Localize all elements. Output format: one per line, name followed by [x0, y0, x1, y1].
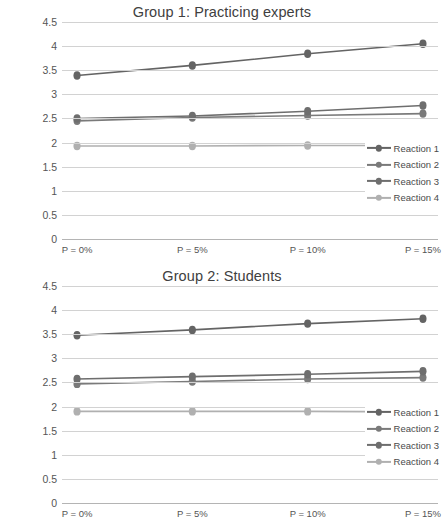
chart-2-legend: Reaction 1Reaction 2Reaction 3Reaction 4	[365, 402, 440, 472]
gridline	[62, 70, 438, 71]
y-axis-tick-label: 0.5	[42, 473, 57, 485]
legend-label: Reaction 3	[394, 441, 439, 451]
legend-swatch	[367, 457, 391, 467]
legend-swatch	[367, 176, 391, 186]
legend-item[interactable]: Reaction 2	[367, 157, 439, 174]
gridline	[62, 334, 438, 335]
x-axis-tick-label: P = 10%	[290, 244, 326, 255]
legend-label: Reaction 2	[394, 424, 439, 434]
legend-label: Reaction 3	[394, 177, 439, 187]
y-axis-tick-label: 1.5	[42, 425, 57, 437]
data-point	[73, 71, 80, 79]
series-line	[77, 319, 423, 335]
data-point	[304, 319, 311, 327]
data-point	[189, 407, 196, 415]
gridline	[62, 358, 438, 359]
legend-item[interactable]: Reaction 4	[367, 190, 439, 207]
legend-item[interactable]: Reaction 1	[367, 140, 439, 157]
legend-label: Reaction 1	[394, 144, 439, 154]
data-point	[419, 367, 426, 375]
x-axis-tick-label: P = 5%	[177, 244, 208, 255]
x-axis-tick-label: P = 0%	[62, 244, 93, 255]
gridline	[62, 46, 438, 47]
data-point	[419, 109, 426, 117]
legend-swatch	[367, 193, 391, 203]
series-reaction-1	[73, 315, 426, 340]
gridline	[62, 503, 438, 504]
chart-group-2: Group 2: Students 00.511.522.533.544.5P …	[0, 264, 444, 529]
legend-label: Reaction 4	[394, 457, 439, 467]
gridline	[62, 94, 438, 95]
chart-group-1: Group 1: Practicing experts 00.511.522.5…	[0, 0, 444, 264]
y-axis-tick-label: 3.5	[42, 64, 57, 76]
x-axis-tick-label: P = 15%	[405, 508, 441, 519]
y-axis-tick-label: 4.5	[42, 16, 57, 28]
legend-label: Reaction 2	[394, 160, 439, 170]
data-point	[189, 326, 196, 334]
chart-2-title-text: Group 2: Students	[154, 268, 289, 284]
y-axis-tick-label: 0.5	[42, 209, 57, 221]
y-axis-tick-label: 4.5	[42, 280, 57, 292]
data-point	[304, 407, 311, 415]
gridline	[62, 118, 438, 119]
y-axis-tick-label: 0	[51, 497, 57, 509]
x-axis-tick-label: P = 15%	[405, 244, 441, 255]
legend-label: Reaction 4	[394, 193, 439, 203]
legend-marker-icon	[375, 145, 381, 151]
legend-item[interactable]: Reaction 3	[367, 173, 439, 190]
legend-item[interactable]: Reaction 2	[367, 421, 439, 438]
y-axis-tick-label: 3	[51, 352, 57, 364]
legend-swatch	[367, 143, 391, 153]
y-axis-tick-label: 4	[51, 40, 57, 52]
chart-2-title: Group 2: Students	[0, 268, 444, 284]
legend-marker-icon	[375, 178, 381, 184]
data-point	[304, 50, 311, 58]
gridline	[62, 286, 438, 287]
data-point	[304, 370, 311, 378]
data-point	[189, 372, 196, 380]
gridline	[62, 382, 438, 383]
y-axis-tick-label: 2.5	[42, 376, 57, 388]
legend-marker-icon	[375, 442, 381, 448]
chart-1-title: Group 1: Practicing experts	[0, 4, 444, 20]
y-axis-tick-label: 1	[51, 449, 57, 461]
y-axis-tick-label: 2	[51, 401, 57, 413]
y-axis-tick-label: 1.5	[42, 161, 57, 173]
legend-item[interactable]: Reaction 3	[367, 437, 439, 454]
gridline	[62, 239, 438, 240]
y-axis-tick-label: 1	[51, 185, 57, 197]
y-axis-tick-label: 4	[51, 304, 57, 316]
data-point	[419, 101, 426, 109]
legend-marker-icon	[375, 426, 381, 432]
data-point	[189, 61, 196, 69]
gridline	[62, 215, 438, 216]
legend-swatch	[367, 440, 391, 450]
data-point	[419, 315, 426, 323]
legend-label: Reaction 1	[394, 408, 439, 418]
x-axis-tick-label: P = 5%	[177, 508, 208, 519]
x-axis-tick-label: P = 10%	[290, 508, 326, 519]
chart-1-title-text: Group 1: Practicing experts	[125, 4, 319, 20]
data-point	[73, 407, 80, 415]
charts-sheet: Group 1: Practicing experts 00.511.522.5…	[0, 0, 444, 529]
y-axis-tick-label: 2	[51, 137, 57, 149]
legend-item[interactable]: Reaction 4	[367, 454, 439, 471]
gridline	[62, 310, 438, 311]
legend-marker-icon	[375, 409, 381, 415]
x-axis-tick-label: P = 0%	[62, 508, 93, 519]
y-axis-tick-label: 3	[51, 88, 57, 100]
legend-swatch	[367, 160, 391, 170]
gridline	[62, 479, 438, 480]
y-axis-tick-label: 0	[51, 233, 57, 245]
legend-marker-icon	[375, 162, 381, 168]
y-axis-tick-label: 2.5	[42, 112, 57, 124]
y-axis-tick-label: 3.5	[42, 328, 57, 340]
data-point	[304, 107, 311, 115]
legend-swatch	[367, 407, 391, 417]
legend-marker-icon	[375, 459, 381, 465]
legend-marker-icon	[375, 195, 381, 201]
gridline	[62, 22, 438, 23]
chart-1-legend: Reaction 1Reaction 2Reaction 3Reaction 4	[365, 138, 440, 208]
legend-item[interactable]: Reaction 1	[367, 404, 439, 421]
legend-swatch	[367, 424, 391, 434]
